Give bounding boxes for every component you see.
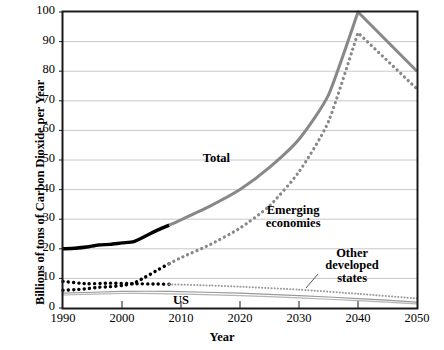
series-line: [63, 264, 169, 291]
series-line: [63, 281, 169, 284]
y-tick-label: 40: [25, 181, 55, 196]
x-tick-label: 2000: [92, 311, 152, 326]
x-tick-label: 2020: [210, 311, 270, 326]
annotation-total: Total: [156, 152, 276, 165]
series-line: [169, 12, 417, 225]
y-tick-label: 20: [25, 240, 55, 255]
x-tick-label: 1990: [33, 311, 93, 326]
annotation-emerging-line1: Emerging: [233, 204, 353, 217]
y-tick-label: 70: [25, 92, 55, 107]
x-tick-label: 2050: [387, 311, 444, 326]
x-tick-label: 2010: [151, 311, 211, 326]
annotation-emerging-line2: economies: [233, 217, 353, 230]
y-tick-label: 60: [25, 121, 55, 136]
x-axis-label: Year: [0, 330, 444, 345]
y-tick-label: 10: [25, 269, 55, 284]
y-tick-label: 30: [25, 210, 55, 225]
emissions-projection-chart: Billions of tons of Carbon Dioxide per Y…: [0, 0, 444, 350]
x-tick-label: 2030: [269, 311, 329, 326]
series-line: [63, 225, 169, 249]
y-tick-label: 90: [25, 33, 55, 48]
annotation-emerging-economies: Emerging economies: [233, 204, 353, 230]
annotation-other-developed-states: Other developed states: [292, 247, 412, 285]
x-tick-label: 2040: [328, 311, 388, 326]
y-tick-label: 100: [25, 3, 55, 18]
y-tick-label: 50: [25, 151, 55, 166]
y-tick-label: 80: [25, 62, 55, 77]
annotation-us: US: [121, 294, 241, 307]
annotation-other-line3: states: [292, 272, 412, 285]
